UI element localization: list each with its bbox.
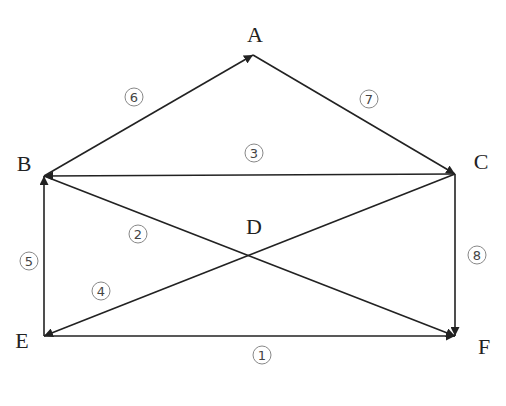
edge-badge-label: 7: [365, 92, 373, 107]
edge-A-to-C: [253, 55, 455, 174]
edge-badge-label: 1: [258, 348, 266, 363]
node-label-F: F: [478, 334, 490, 359]
edge-C-to-B: [44, 174, 455, 176]
node-label-C: C: [474, 149, 489, 174]
node-label-E: E: [15, 328, 28, 353]
edge-badge-6: 6: [125, 88, 143, 106]
edge-badge-label: 6: [130, 90, 138, 105]
edge-badge-7: 7: [360, 90, 378, 108]
edge-badge-label: 3: [250, 146, 258, 161]
node-labels-layer: ABCDEF: [15, 22, 490, 359]
edge-badge-5: 5: [20, 252, 38, 270]
edge-badge-3: 3: [245, 144, 263, 162]
directed-graph-diagram: 12345678 ABCDEF: [0, 0, 506, 406]
edge-badge-8: 8: [468, 246, 486, 264]
edge-badge-label: 8: [473, 248, 481, 263]
edge-badge-label: 2: [134, 227, 142, 242]
edge-badge-1: 1: [253, 346, 271, 364]
edge-badge-4: 4: [92, 282, 110, 300]
node-label-B: B: [17, 151, 32, 176]
edge-badge-label: 5: [25, 254, 33, 269]
node-label-D: D: [246, 214, 262, 239]
edge-B-to-A: [44, 55, 253, 176]
edge-badge-label: 4: [97, 284, 105, 299]
edge-badge-2: 2: [129, 225, 147, 243]
node-label-A: A: [247, 22, 263, 47]
